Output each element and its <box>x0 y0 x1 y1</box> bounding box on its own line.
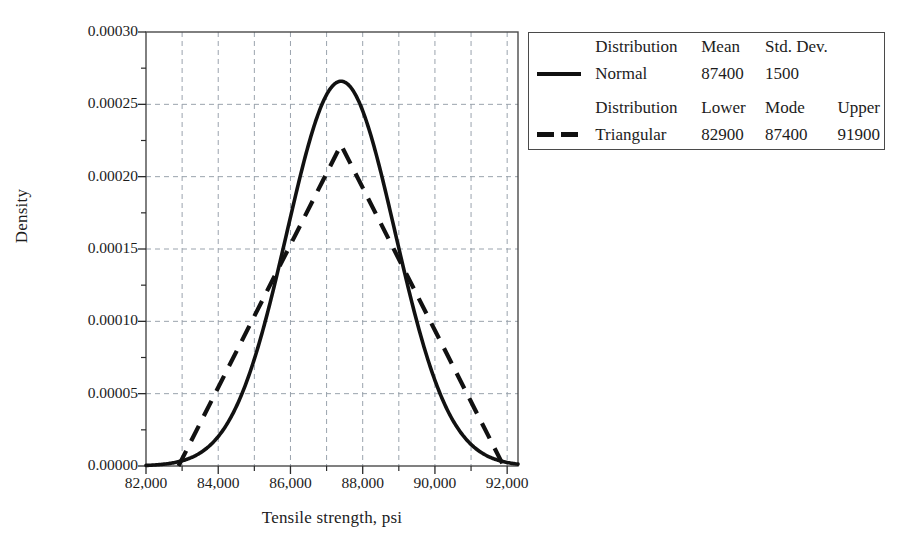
legend-value-normal-mean: 87400 <box>697 59 761 87</box>
y-tick-label: 0.00020 <box>46 167 138 185</box>
legend-table: Distribution Mean Std. Dev. Normal 87400… <box>529 33 884 149</box>
normal-line-swatch <box>529 59 591 87</box>
normal-distribution-curve <box>146 81 518 465</box>
legend-header-std-dev: Std. Dev. <box>761 33 833 59</box>
legend-header-swatch-spacer <box>529 33 591 59</box>
legend-header-distribution-1: Distribution <box>591 33 697 59</box>
legend-row-normal: Normal 87400 1500 <box>529 59 884 87</box>
y-tick-label: 0.00005 <box>46 384 138 402</box>
x-axis-title: Tensile strength, psi <box>146 508 518 528</box>
legend-header-mean: Mean <box>697 33 761 59</box>
legend-value-triangular-lower: 82900 <box>697 120 761 149</box>
y-tick-label: 0.00000 <box>46 456 138 474</box>
legend-value-triangular-name: Triangular <box>591 120 697 149</box>
legend-value-triangular-mode: 87400 <box>761 120 833 149</box>
legend-box: Distribution Mean Std. Dev. Normal 87400… <box>528 32 885 150</box>
legend-header-lower: Lower <box>697 94 761 120</box>
legend-header-row-normal: Distribution Mean Std. Dev. <box>529 33 884 59</box>
legend-value-normal-name: Normal <box>591 59 697 87</box>
legend-header-upper: Upper <box>834 94 885 120</box>
axis-ticks <box>138 32 507 474</box>
y-tick-label: 0.00025 <box>46 94 138 112</box>
legend-header-mode: Mode <box>761 94 833 120</box>
legend-value-normal-std-dev: 1500 <box>761 59 833 87</box>
y-tick-label: 0.00030 <box>46 22 138 40</box>
gridlines <box>146 32 518 466</box>
legend-header-row-triangular: Distribution Lower Mode Upper <box>529 94 884 120</box>
dashed-line-icon <box>537 132 583 137</box>
legend-header-swatch-spacer-2 <box>529 94 591 120</box>
density-chart-figure: 0.000000.000050.000100.000150.000200.000… <box>0 0 907 555</box>
y-tick-label: 0.00015 <box>46 239 138 257</box>
triangular-distribution-curve <box>179 145 504 466</box>
y-axis-title: Density <box>12 166 32 266</box>
y-axis-tick-labels: 0.000000.000050.000100.000150.000200.000… <box>28 0 138 555</box>
legend-row-triangular: Triangular 82900 87400 91900 <box>529 120 884 149</box>
solid-line-icon <box>537 72 581 76</box>
y-tick-label: 0.00010 <box>46 311 138 329</box>
legend-header-distribution-2: Distribution <box>591 94 697 120</box>
triangular-line-swatch <box>529 120 591 149</box>
legend-value-triangular-upper: 91900 <box>834 120 885 149</box>
x-tick-label: 92,000 <box>462 474 552 492</box>
